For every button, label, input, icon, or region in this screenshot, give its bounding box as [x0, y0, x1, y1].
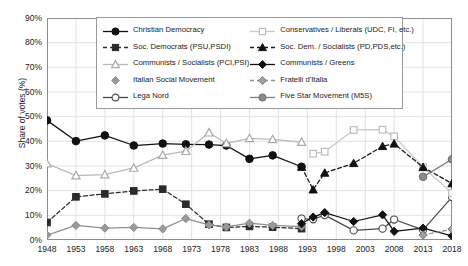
data-point-triangle-open [205, 129, 213, 136]
data-point-diamond [350, 217, 358, 225]
legend-swatch [249, 57, 276, 70]
legend-item[interactable]: Communists / Socialists (PCI,PSI) [102, 55, 249, 72]
series-3 [47, 129, 306, 179]
data-point-square-open [321, 148, 328, 155]
legend-marker-gray-diamond-open [249, 74, 276, 87]
legend-label: Communists / Greens [280, 59, 354, 67]
data-point-circle-gray [259, 94, 266, 101]
series-line [47, 120, 302, 166]
data-point-square [112, 45, 118, 51]
data-point-square-open [350, 127, 357, 134]
legend-marker-filled-square [102, 41, 129, 54]
data-point-square-open [449, 190, 452, 197]
data-point-diamond [390, 227, 398, 235]
legend-swatch [249, 90, 276, 103]
data-point-square-open [379, 126, 386, 133]
legend-marker-open-circle [102, 91, 129, 104]
legend-swatch [102, 73, 129, 86]
legend-swatch [102, 40, 129, 53]
y-tick-label: 40% [12, 137, 42, 146]
legend-swatch [249, 73, 276, 86]
legend-column-left: Christian DemocracySoc. Democrats (PSU,P… [102, 22, 249, 108]
chart-legend: Christian DemocracySoc. Democrats (PSU,P… [96, 17, 403, 109]
data-point-triangle [350, 159, 358, 166]
chart-container: Share of votes (%) 90%80%70%60%50%40%30%… [0, 0, 468, 266]
legend-item[interactable]: Soc. Democrats (PSU,PSDI) [102, 39, 249, 56]
data-point-circle [269, 152, 277, 160]
data-point-triangle [390, 140, 398, 147]
data-point-square [73, 194, 80, 201]
legend-label: Soc. Dem. / Socialists (PD,PDS,etc.) [280, 43, 405, 51]
legend-marker-filled-diamond [249, 58, 276, 71]
legend-label: Soc. Democrats (PSU,PSDI) [133, 43, 231, 51]
data-point-circle-open [379, 225, 386, 232]
series-line [47, 189, 302, 228]
x-axis-tick-labels: 1948195319581963196819731978198319881993… [0, 245, 468, 263]
legend-marker-filled-diamond-gray [102, 74, 129, 87]
legend-item[interactable]: Italian Social Movement [102, 72, 249, 89]
legend-label: Communists / Socialists (PCI,PSI) [133, 59, 249, 67]
legend-marker-filled-circle [102, 25, 129, 38]
y-tick-label: 20% [12, 186, 42, 195]
data-point-circle-open [112, 94, 119, 101]
data-point-diamond-gray [130, 223, 138, 231]
legend-column-right: Conservatives / Liberals (UDC, FI, etc.)… [249, 22, 397, 108]
data-point-triangle-open [130, 164, 138, 171]
data-point-square-open [260, 28, 266, 34]
legend-label: Italian Social Movement [133, 76, 215, 84]
data-point-square-open [310, 150, 317, 157]
legend-marker-open-square [249, 25, 276, 38]
data-point-diamond-gray [101, 224, 109, 232]
legend-label: Conservatives / Liberals (UDC, FI, etc.) [280, 26, 414, 34]
series-line [313, 130, 452, 193]
y-axis-tick-labels: 90%80%70%60%50%40%30%20%10%0% [10, 0, 42, 266]
y-tick-label: 90% [12, 14, 42, 23]
legend-marker-open-triangle [102, 58, 129, 71]
data-point-circle [246, 155, 254, 163]
y-tick-label: 70% [12, 63, 42, 72]
data-point-diamond-open-gray [448, 225, 452, 233]
legend-label: Christian Democracy [133, 26, 204, 34]
data-point-triangle [309, 186, 317, 193]
legend-item[interactable]: Soc. Dem. / Socialists (PD,PDS,etc.) [249, 39, 397, 56]
legend-item[interactable]: Lega Nord [102, 88, 249, 105]
y-tick-label: 50% [12, 112, 42, 121]
y-tick-label: 30% [12, 162, 42, 171]
data-point-square [130, 188, 137, 195]
data-point-circle-open [391, 216, 398, 223]
legend-marker-filled-triangle [249, 41, 276, 54]
legend-swatch [102, 57, 129, 70]
legend-label: Fratelli d'Italia [280, 76, 327, 84]
data-point-circle [130, 142, 138, 150]
data-point-square [183, 201, 190, 208]
legend-item[interactable]: Fratelli d'Italia [249, 72, 397, 89]
data-point-diamond [259, 60, 267, 68]
y-tick-label: 0% [12, 236, 42, 245]
data-point-square [47, 219, 50, 226]
series-1 [47, 117, 305, 171]
data-point-diamond-gray [72, 221, 80, 229]
data-point-diamond-gray [47, 231, 51, 239]
legend-item[interactable]: Christian Democracy [102, 22, 249, 39]
legend-label: Lega Nord [133, 92, 169, 100]
y-tick-label: 80% [12, 38, 42, 47]
data-point-circle [112, 28, 119, 35]
x-tick-label: 2018 [432, 245, 468, 254]
legend-swatch [249, 24, 276, 37]
data-point-circle [47, 117, 51, 125]
data-point-square [102, 191, 109, 198]
legend-swatch [249, 40, 276, 53]
data-point-square [159, 186, 166, 193]
data-point-circle [72, 137, 80, 145]
legend-item[interactable]: Five Star Movement (M5S) [249, 88, 397, 105]
legend-marker-gray-circle [249, 91, 276, 104]
data-point-diamond-open-gray [259, 77, 267, 85]
series-line [423, 159, 452, 177]
legend-item[interactable]: Conservatives / Liberals (UDC, FI, etc.) [249, 22, 397, 39]
data-point-circle-gray [448, 156, 452, 164]
data-point-triangle-open [47, 159, 51, 166]
legend-item[interactable]: Communists / Greens [249, 55, 397, 72]
legend-label: Five Star Movement (M5S) [280, 92, 372, 100]
data-point-diamond-gray [112, 77, 120, 85]
data-point-circle [101, 132, 109, 140]
